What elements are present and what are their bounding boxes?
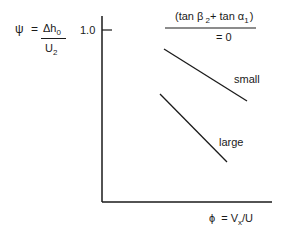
alpha-sub: 1 bbox=[244, 16, 248, 25]
y-tick-label: 1.0 bbox=[80, 25, 95, 36]
beta-sub: 2 bbox=[203, 16, 210, 25]
line-large-label: large bbox=[219, 137, 243, 148]
psi-symbol: ψ bbox=[15, 22, 24, 36]
numerator-text: Δh bbox=[43, 22, 56, 34]
x-axis-rest: /U bbox=[242, 212, 253, 224]
x-sub: x bbox=[238, 218, 242, 227]
close-paren: ) bbox=[250, 10, 254, 22]
denominator-sub: 2 bbox=[53, 48, 57, 57]
x-axis-equals: = V bbox=[221, 212, 238, 224]
x-axis-label: ϕ = Vx/U bbox=[209, 213, 253, 224]
tan-alpha-text: + tan α bbox=[210, 10, 244, 22]
numerator-sub: 0 bbox=[56, 28, 60, 37]
denominator-text: U bbox=[45, 42, 53, 54]
line-large bbox=[160, 94, 227, 162]
line-small-label: small bbox=[234, 74, 260, 85]
y-axis-label-denominator: U2 bbox=[45, 43, 57, 54]
equals-sign: = bbox=[31, 22, 38, 36]
phi-symbol: ϕ bbox=[209, 212, 215, 224]
legend-header-expression: (tan β 2+ tan α1) bbox=[175, 11, 253, 22]
legend-header-value: = 0 bbox=[216, 32, 232, 43]
y-axis-label-numerator: Δh0 bbox=[43, 23, 61, 34]
y-axis-label-fraction-bar bbox=[41, 38, 66, 39]
diagram-canvas bbox=[0, 0, 287, 235]
tan-beta-text: (tan β bbox=[175, 10, 203, 22]
y-axis-label-psi: ψ = bbox=[15, 23, 38, 35]
